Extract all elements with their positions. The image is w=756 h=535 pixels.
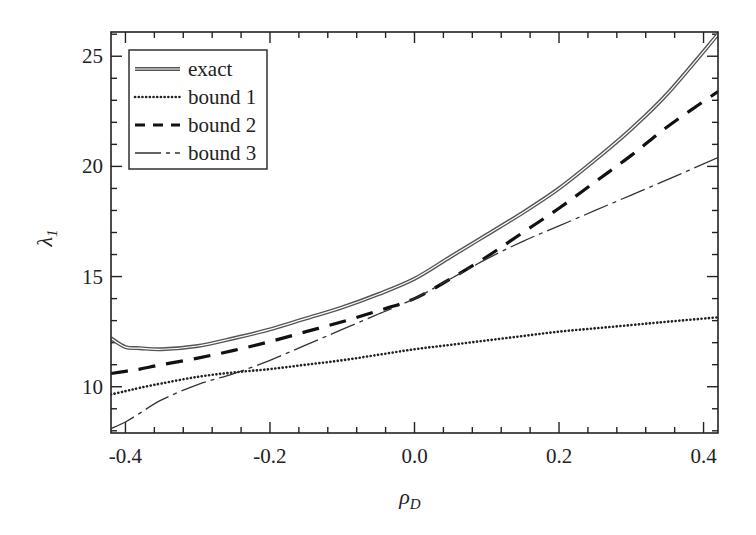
x-tick-label: 0.2 <box>546 444 572 468</box>
legend-label: bound 2 <box>188 113 256 137</box>
x-tick-label: 0.4 <box>690 444 717 468</box>
legend-label: bound 3 <box>188 141 256 165</box>
line-chart: -0.4-0.20.00.20.410152025 exactbound 1bo… <box>0 0 756 535</box>
series-bound-3 <box>111 158 718 429</box>
x-tick-label: 0.0 <box>401 444 427 468</box>
y-tick-label: 25 <box>82 44 103 68</box>
y-tick-label: 20 <box>82 154 103 178</box>
legend-label: bound 1 <box>188 85 256 109</box>
y-tick-label: 10 <box>82 375 103 399</box>
y-axis-label: λ1 <box>32 229 60 247</box>
x-axis-label: ρD <box>398 484 421 512</box>
x-tick-label: -0.2 <box>253 444 286 468</box>
legend-label: exact <box>188 57 232 81</box>
x-tick-label: -0.4 <box>109 444 143 468</box>
legend: exactbound 1bound 2bound 3 <box>129 50 267 169</box>
y-tick-label: 15 <box>82 265 103 289</box>
